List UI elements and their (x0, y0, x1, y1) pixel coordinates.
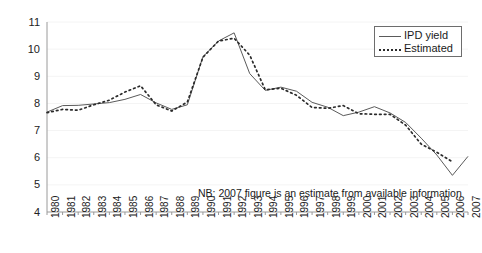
x-axis-tick-label: 1996 (300, 196, 310, 218)
legend-item-estimated: Estimated (378, 42, 453, 55)
x-axis-tick-label: 2002 (394, 196, 404, 218)
x-axis-tick-label: 1995 (285, 196, 295, 218)
y-axis-tick-label: 4 (14, 207, 40, 218)
y-axis-tick-label: 5 (14, 179, 40, 190)
y-axis-tick-label: 7 (14, 125, 40, 136)
x-axis-tick-label: 1994 (269, 196, 279, 218)
chart-annotation-note: NB: 2007 figure is an estimate from avai… (198, 188, 462, 199)
legend-label-ipd-yield: IPD yield (404, 30, 448, 41)
x-axis-tick-label: 1990 (207, 196, 217, 218)
y-axis-tick-label: 8 (14, 98, 40, 109)
x-axis-tick-label: 2001 (378, 196, 388, 218)
x-axis-tick-label: 2000 (363, 196, 373, 218)
x-axis-tick-label: 1999 (347, 196, 357, 218)
x-axis-tick-label: 1997 (316, 196, 326, 218)
x-axis-tick-label: 1991 (223, 196, 233, 218)
chart-legend: IPD yield Estimated (374, 26, 462, 57)
y-axis-tick-label: 9 (14, 71, 40, 82)
legend-dotted-line-icon (378, 44, 402, 54)
x-axis-tick-label: 1989 (191, 196, 201, 218)
x-axis-tick-label: 1985 (129, 196, 139, 218)
y-axis-tick-label: 6 (14, 152, 40, 163)
x-axis-tick-label: 1984 (113, 196, 123, 218)
y-axis-tick-label: 11 (14, 17, 40, 28)
x-axis-tick-label: 1986 (145, 196, 155, 218)
x-axis-tick-label: 1993 (254, 196, 264, 218)
x-axis-tick-label: 1988 (176, 196, 186, 218)
x-axis-tick-label: 1992 (238, 196, 248, 218)
x-axis-tick-label: 1981 (67, 196, 77, 218)
x-axis-tick-label: 2006 (456, 196, 466, 218)
x-axis-tick-label: 1980 (51, 196, 61, 218)
x-axis-tick-label: 2004 (425, 196, 435, 218)
y-axis-tick-label: 10 (14, 44, 40, 55)
x-axis-tick-label: 2005 (441, 196, 451, 218)
x-axis-tick-label: 1982 (82, 196, 92, 218)
legend-solid-line-icon (378, 31, 402, 41)
x-axis-tick-label: 2003 (410, 196, 420, 218)
x-axis-tick-label: 1983 (98, 196, 108, 218)
x-axis-tick-label: 1987 (160, 196, 170, 218)
legend-item-ipd-yield: IPD yield (378, 29, 448, 42)
x-axis-tick-label: 2007 (472, 196, 482, 218)
legend-label-estimated: Estimated (404, 43, 453, 54)
x-axis-tick-label: 1998 (332, 196, 342, 218)
